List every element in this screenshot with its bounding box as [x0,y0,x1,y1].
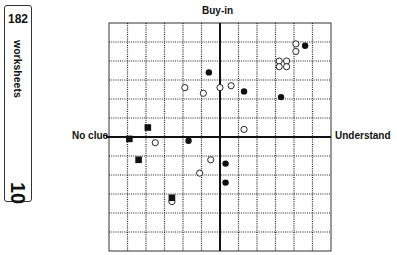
filled-circle-marker [241,88,247,94]
open-circle-marker [217,85,223,91]
filled-square-marker [145,124,152,131]
filled-circle-marker [302,43,308,49]
open-circle-marker [293,41,299,47]
filled-circle-marker [185,138,191,144]
filled-circle-marker [222,160,228,166]
filled-circle-marker [206,69,212,75]
filled-square-marker [169,195,176,202]
open-circle-marker [152,140,158,146]
filled-square-marker [126,136,133,143]
scatter-plot [0,0,397,255]
open-circle-marker [276,64,282,70]
open-circle-marker [241,126,247,132]
open-circle-marker [182,85,188,91]
filled-square-marker [135,157,142,164]
filled-circle-marker [278,94,284,100]
filled-circle-marker [222,179,228,185]
open-circle-marker [228,83,234,89]
open-circle-marker [293,48,299,54]
open-circle-marker [197,170,203,176]
open-circle-marker [200,90,206,96]
open-circle-marker [284,64,290,70]
open-circle-marker [208,157,214,163]
